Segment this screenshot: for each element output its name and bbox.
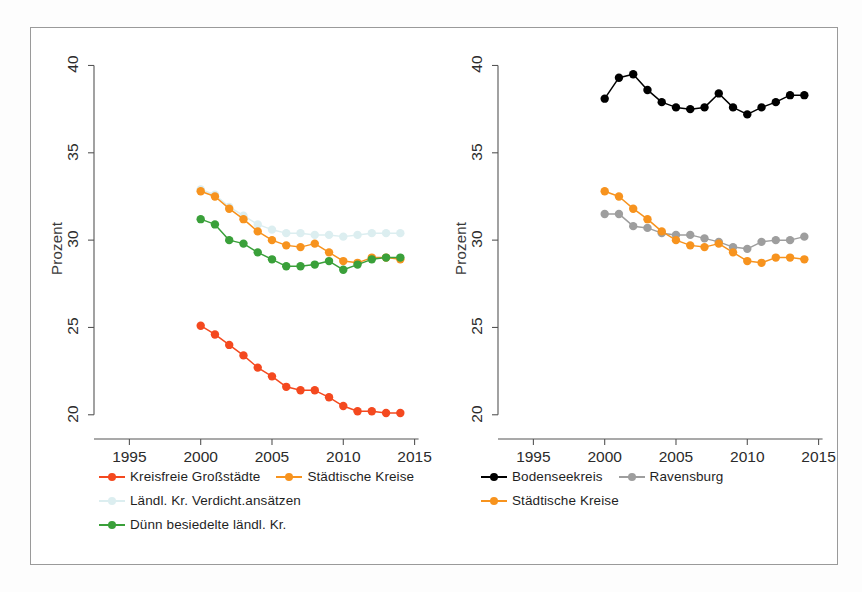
legend-item-label: Kreisfreie Großstädte: [130, 469, 260, 484]
legend-marker-icon: [99, 495, 125, 507]
legend-marker-icon: [619, 471, 645, 483]
legend-dot-swatch: [490, 497, 498, 505]
x-tick-label: 2000: [179, 448, 223, 466]
legend-marker-icon: [99, 519, 125, 531]
series-bodenseekreis: [600, 70, 808, 119]
series-st-dtische-kreise: [196, 187, 404, 267]
series-kreisfreie-gro-st-dte: [196, 322, 404, 418]
plot-area-right: [435, 28, 839, 566]
legend-item-label: Bodenseekreis: [512, 469, 603, 484]
legend-dot-swatch: [285, 473, 293, 481]
legend-row: Ländl. Kr. Verdicht.ansätzen: [99, 493, 301, 508]
legend-item-label: Ländl. Kr. Verdicht.ansätzen: [130, 493, 301, 508]
legend-item-staedtische-kreise[interactable]: Städtische Kreise: [276, 469, 414, 484]
x-tick-label: 2010: [321, 448, 365, 466]
x-tick-label: 2005: [654, 448, 698, 466]
y-tick-label: 30: [468, 226, 486, 252]
legend-dot-swatch: [108, 473, 116, 481]
legend-dot-swatch: [108, 497, 116, 505]
y-tick-label: 20: [468, 401, 486, 427]
plot-area-left: [31, 28, 435, 566]
series-l-ndl-kr-verdicht-ans-tzen: [196, 185, 404, 241]
y-tick-label: 35: [468, 139, 486, 165]
y-axis-title-left: Prozent: [48, 222, 65, 275]
chart-panel-left: Prozent Kreisfreie GroßstädteStädtische …: [31, 28, 435, 564]
legend-marker-icon: [276, 471, 302, 483]
chart-panel-right: Prozent BodenseekreisRavensburgStädtisch…: [435, 28, 839, 564]
x-tick-label: 2015: [797, 448, 841, 466]
legend-dot-swatch: [108, 521, 116, 529]
y-tick-label: 30: [64, 226, 82, 252]
legend-item-label: Dünn besiedelte ländl. Kr.: [130, 517, 286, 532]
y-axis-title-right: Prozent: [452, 222, 469, 275]
y-tick-label: 35: [64, 139, 82, 165]
legend-item-label: Städtische Kreise: [307, 469, 414, 484]
legend-row: BodenseekreisRavensburg: [481, 469, 723, 484]
legend-marker-icon: [481, 471, 507, 483]
legend-item-ravensburg[interactable]: Ravensburg: [619, 469, 724, 484]
legend-item-staedtische-kreise[interactable]: Städtische Kreise: [481, 493, 619, 508]
legend-item-label: Städtische Kreise: [512, 493, 619, 508]
y-tick-label: 40: [468, 51, 486, 77]
legend-dot-swatch: [490, 473, 498, 481]
figure-frame: Prozent Kreisfreie GroßstädteStädtische …: [30, 27, 838, 565]
legend-item-label: Ravensburg: [650, 469, 724, 484]
legend-row: Kreisfreie GroßstädteStädtische Kreise: [99, 469, 414, 484]
legend-row: Dünn besiedelte ländl. Kr.: [99, 517, 286, 532]
legend-marker-icon: [99, 471, 125, 483]
y-tick-label: 25: [468, 313, 486, 339]
figure-canvas: Prozent Kreisfreie GroßstädteStädtische …: [0, 0, 862, 592]
x-tick-label: 2010: [725, 448, 769, 466]
legend-dot-swatch: [628, 473, 636, 481]
legend-item-laendl-kr-verdicht[interactable]: Ländl. Kr. Verdicht.ansätzen: [99, 493, 301, 508]
legend-item-bodenseekreis[interactable]: Bodenseekreis: [481, 469, 603, 484]
legend-marker-icon: [481, 495, 507, 507]
legend-item-kreisfreie-grossstaedte[interactable]: Kreisfreie Großstädte: [99, 469, 260, 484]
x-tick-label: 1995: [107, 448, 151, 466]
legend-row: Städtische Kreise: [481, 493, 619, 508]
legend-item-duenn-besiedelte[interactable]: Dünn besiedelte ländl. Kr.: [99, 517, 286, 532]
y-tick-label: 25: [64, 313, 82, 339]
x-tick-label: 1995: [511, 448, 555, 466]
y-tick-label: 40: [64, 51, 82, 77]
x-tick-label: 2000: [583, 448, 627, 466]
x-tick-label: 2015: [393, 448, 437, 466]
x-tick-label: 2005: [250, 448, 294, 466]
y-tick-label: 20: [64, 401, 82, 427]
